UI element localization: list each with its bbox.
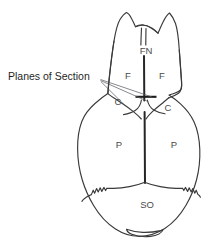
callout-planes-of-section: Planes of Section [8, 70, 90, 82]
skull-svg: Planes of Section FN F F C C P P SO [0, 0, 220, 247]
label-frontal-left: F [125, 70, 131, 81]
label-parietal-right: P [171, 139, 177, 150]
skull-diagram: Planes of Section FN F F C C P P SO [0, 0, 220, 247]
label-frontal-right: F [159, 70, 165, 81]
internasal-suture-left [141, 28, 142, 45]
label-parietal-left: P [116, 139, 122, 150]
label-coronal-right: C [165, 102, 172, 113]
label-supraoccipital: SO [140, 199, 154, 210]
label-frontonasal: FN [140, 45, 153, 56]
label-coronal-left: C [115, 96, 122, 107]
